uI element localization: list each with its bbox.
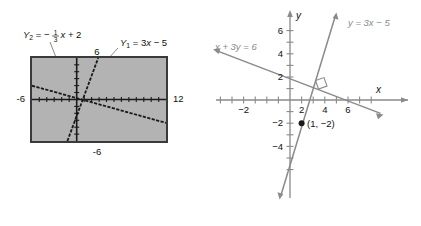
y-tick-label--4: −4 (272, 141, 283, 152)
calc-top-label: 6 (94, 46, 99, 57)
x-axis-label: x (375, 84, 382, 95)
y-tick-label-4: 4 (278, 48, 283, 59)
calc-label-y2-text: Y2 = − (23, 29, 50, 41)
x-tick-label-6: 6 (345, 104, 350, 115)
y-tick-label--2: −2 (272, 117, 283, 128)
x-tick-label-4: 4 (322, 104, 327, 115)
calc-bottom-label: -6 (93, 146, 101, 157)
y-axis-label: y (295, 10, 302, 21)
plane-label-y3x5: y = 3x − 5 (347, 17, 390, 28)
plotted-point (299, 120, 305, 126)
plotted-point-label: (1, −2) (307, 118, 335, 129)
plane-label-x3y6: x + 3y = 6 (214, 41, 257, 52)
figure-svg: 6 -6 -6 12 Y2 = − Y2 = -1/3 x + 2 1 3 x … (0, 0, 421, 226)
math-figure: 6 -6 -6 12 Y2 = − Y2 = -1/3 x + 2 1 3 x … (0, 0, 421, 226)
y-tick-label-6: 6 (278, 25, 283, 36)
x-tick-label--2: −2 (238, 104, 249, 115)
calc-left-label: -6 (17, 93, 25, 104)
y2-rhs-pre: = − (33, 29, 50, 40)
fraction-denominator: 3 (54, 36, 58, 43)
fraction-numerator: 1 (54, 29, 58, 36)
calc-right-label: 12 (173, 93, 184, 104)
calc-label-y2-tail: x + 2 (60, 29, 82, 40)
y-tick-label-2: 2 (278, 71, 283, 82)
x-tick-label-2: 2 (299, 104, 304, 115)
